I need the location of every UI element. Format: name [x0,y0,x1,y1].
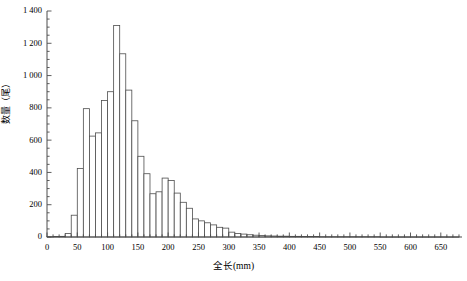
x-tick-label: 650 [421,243,461,252]
histogram-bar [229,232,235,237]
y-axis-label: 数量（尾） [1,53,11,149]
histogram-bar [77,168,83,237]
histogram-bar [108,92,114,237]
histogram-bar [144,174,150,237]
x-axis-label: 全长(mm) [0,258,467,272]
histogram-bar [162,178,168,237]
y-tick-label: 400 [29,168,42,177]
bar-group [47,26,459,238]
histogram-bar [65,233,71,237]
y-tick-label: 1 200 [23,39,42,48]
histogram-bar [120,54,126,237]
y-tick-label: 200 [29,200,42,209]
histogram-bar [156,192,162,237]
y-tick-label: 1 400 [23,6,42,15]
y-tick-label: 600 [29,136,42,145]
histogram-bar [223,228,229,237]
histogram-bar [235,233,241,237]
histogram-bar [174,193,180,237]
plot-area [0,0,467,281]
histogram-bar [102,101,108,237]
histogram-bar [95,133,101,237]
histogram-figure: 数量（尾） 全长(mm) 02004006008001 0001 2001 40… [0,0,467,281]
histogram-bar [71,215,77,237]
histogram-bar [186,208,192,237]
y-tick-group [47,11,52,237]
histogram-bar [205,223,211,237]
y-tick-label: 0 [38,232,42,241]
histogram-bar [138,156,144,237]
histogram-bar [114,26,120,237]
histogram-bar [198,221,204,237]
histogram-bar [180,202,186,237]
histogram-bar [168,181,174,238]
histogram-bar [83,109,89,237]
histogram-bar [217,227,223,237]
histogram-bar [132,121,138,237]
y-tick-label: 800 [29,103,42,112]
histogram-bar [126,90,132,237]
histogram-bar [192,219,198,237]
histogram-bar [150,194,156,237]
histogram-bar [211,225,217,237]
histogram-bar [89,136,95,237]
y-tick-label: 1 000 [23,71,42,80]
